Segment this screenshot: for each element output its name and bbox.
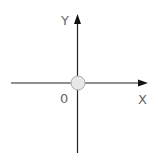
origin-point	[71, 76, 85, 90]
x-axis-label: X	[138, 93, 147, 106]
x-axis-arrow-icon	[138, 80, 148, 87]
y-axis-arrow-icon	[74, 14, 81, 24]
y-axis-label: Y	[61, 14, 69, 27]
coordinate-axes-diagram	[0, 0, 158, 163]
origin-label: 0	[60, 92, 68, 105]
